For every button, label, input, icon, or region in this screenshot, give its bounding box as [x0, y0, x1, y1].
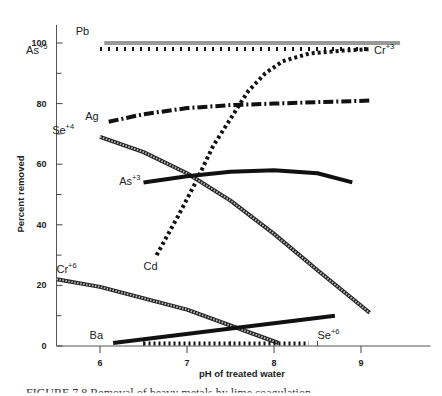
series-label-ag: Ag — [85, 110, 98, 122]
series-label-crp6: Cr+6 — [57, 261, 77, 275]
axes: 6789020406080100 — [31, 25, 430, 368]
y-tick-label: 80 — [36, 99, 46, 109]
series-label-sep6: Se+6 — [318, 327, 340, 341]
x-axis-title: pH of treated water — [199, 368, 285, 379]
y-tick-label: 20 — [36, 280, 46, 290]
y-tick-label: 40 — [36, 220, 46, 230]
series-line-ba — [113, 316, 335, 343]
x-tick-label: 9 — [358, 358, 363, 368]
y-tick-label: 60 — [36, 159, 46, 169]
y-axis-title: Percent removed — [15, 155, 26, 232]
series-label-asp5: As+5 — [26, 42, 47, 56]
x-tick-label: 7 — [184, 358, 189, 368]
y-tick-label: 0 — [41, 341, 46, 351]
chart: 6789020406080100 PbAs+5Cr+3AgSe+4As+3Cr+… — [0, 0, 442, 396]
series-label-sep4: Se+4 — [52, 122, 74, 136]
series-line-asp3 — [144, 170, 353, 182]
series-group — [57, 43, 401, 344]
series-label-asp3: As+3 — [119, 173, 140, 187]
series-label-pb: Pb — [76, 25, 89, 37]
series-label-crp3: Cr+3 — [374, 42, 394, 56]
series-labels: PbAs+5Cr+3AgSe+4As+3Cr+6BaSe+6Cd — [26, 25, 394, 341]
series-line-ag — [109, 101, 370, 122]
series-label-cd: Cd — [144, 260, 158, 272]
x-tick-label: 8 — [271, 358, 276, 368]
series-line-sep4 — [100, 137, 370, 313]
series-label-ba: Ba — [90, 329, 104, 341]
series-line-sep4 — [100, 137, 370, 313]
x-tick-label: 6 — [97, 358, 102, 368]
